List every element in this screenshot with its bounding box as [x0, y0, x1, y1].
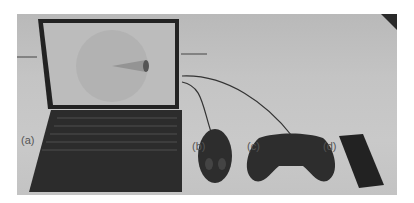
label-d: (d) [323, 140, 336, 152]
corner-shadow [381, 14, 397, 30]
mouse [198, 129, 232, 183]
label-c: (c) [247, 140, 260, 152]
mouse-cable [182, 82, 211, 132]
gamepad-cable [182, 76, 292, 136]
label-a: (a) [21, 134, 34, 146]
label-b: (b) [192, 140, 205, 152]
gamepad [247, 134, 335, 182]
device-photo: (a) (b) (c) (d) [17, 14, 397, 195]
photo-scene [17, 14, 397, 195]
laptop [29, 19, 182, 192]
smartphone [339, 134, 384, 188]
radar-cone-end [143, 60, 149, 72]
